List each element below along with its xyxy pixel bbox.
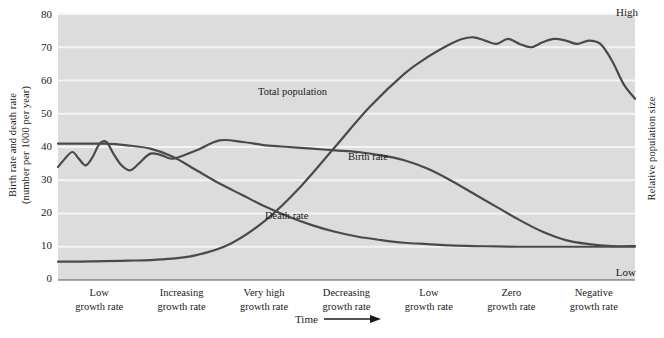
- right-axis-high-label: High: [616, 6, 638, 18]
- x-stage-1-line2: growth rate: [140, 300, 222, 314]
- demographic-transition-chart: Birth rate and death rate (number per 10…: [0, 0, 664, 338]
- x-axis-title-text: Time: [295, 313, 318, 325]
- x-axis-title-group: Time: [295, 313, 382, 325]
- x-stage-increasing-growth-rate: Increasing growth rate: [140, 286, 222, 326]
- x-stage-3-line1: Decreasing: [305, 286, 387, 300]
- x-stage-negative-growth-rate: Negative growth rate: [553, 286, 635, 326]
- x-stage-3-line2: growth rate: [305, 300, 387, 314]
- x-stage-1-line1: Increasing: [140, 286, 222, 300]
- curve-label-birth-rate: Birth rate: [348, 151, 388, 162]
- x-stage-2-line1: Very high: [223, 286, 305, 300]
- x-stage-4-line1: Low: [388, 286, 470, 300]
- x-stage-very-high-growth-rate: Very high growth rate: [223, 286, 305, 326]
- curve-label-total-population: Total population: [258, 86, 327, 97]
- x-stage-2-line2: growth rate: [223, 300, 305, 314]
- x-stage-0-line2: growth rate: [58, 300, 140, 314]
- x-stage-4-line2: growth rate: [388, 300, 470, 314]
- x-stage-6-line1: Negative: [553, 286, 635, 300]
- curve-label-death-rate: Death rate: [265, 210, 308, 221]
- x-stage-0-line1: Low: [58, 286, 140, 300]
- y-axis-right-title-text: Relative population size: [647, 96, 658, 200]
- x-stage-low-growth-rate: Low growth rate: [58, 286, 140, 326]
- x-stage-5-line2: growth rate: [470, 300, 552, 314]
- x-stage-low-growth-rate-2: Low growth rate: [388, 286, 470, 326]
- x-stage-5-line1: Zero: [470, 286, 552, 300]
- right-axis-low-label: Low: [616, 266, 636, 278]
- x-stage-6-line2: growth rate: [553, 300, 635, 314]
- time-arrow-icon: [324, 314, 382, 324]
- x-stage-zero-growth-rate: Zero growth rate: [470, 286, 552, 326]
- y-axis-right-title: Relative population size: [641, 24, 663, 272]
